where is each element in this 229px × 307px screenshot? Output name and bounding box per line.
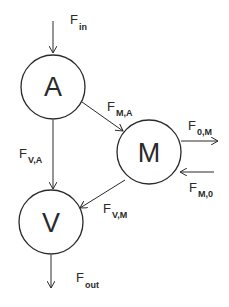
node-v-label: V: [42, 208, 60, 238]
svg-text:F: F: [107, 99, 115, 114]
node-a-label: A: [44, 72, 62, 102]
svg-text:V,A: V,A: [28, 155, 43, 165]
compartment-diagram: A M V F in F M,A F V,A F 0,M F M,0 F V,M…: [0, 0, 229, 307]
label-f-m-0: F M,0: [189, 180, 213, 199]
svg-text:F: F: [19, 146, 27, 161]
label-f-0-m: F 0,M: [188, 118, 212, 137]
svg-text:V,M: V,M: [112, 210, 127, 220]
svg-text:out: out: [85, 280, 99, 290]
svg-text:F: F: [76, 270, 84, 285]
node-v: V: [19, 190, 83, 254]
svg-text:F: F: [188, 118, 196, 133]
node-m-label: M: [138, 138, 161, 168]
svg-text:F: F: [70, 12, 78, 27]
node-a: A: [21, 55, 85, 119]
svg-text:F: F: [189, 180, 197, 195]
svg-text:M,0: M,0: [198, 189, 213, 199]
label-f-v-a: F V,A: [19, 146, 43, 165]
label-f-v-m: F V,M: [103, 201, 127, 220]
label-f-out: F out: [76, 270, 99, 290]
svg-text:in: in: [79, 22, 87, 32]
node-m: M: [117, 120, 181, 184]
label-f-m-a: F M,A: [107, 99, 133, 118]
svg-text:M,A: M,A: [116, 108, 133, 118]
svg-text:F: F: [103, 201, 111, 216]
label-f-in: F in: [70, 12, 87, 32]
svg-text:0,M: 0,M: [197, 127, 212, 137]
